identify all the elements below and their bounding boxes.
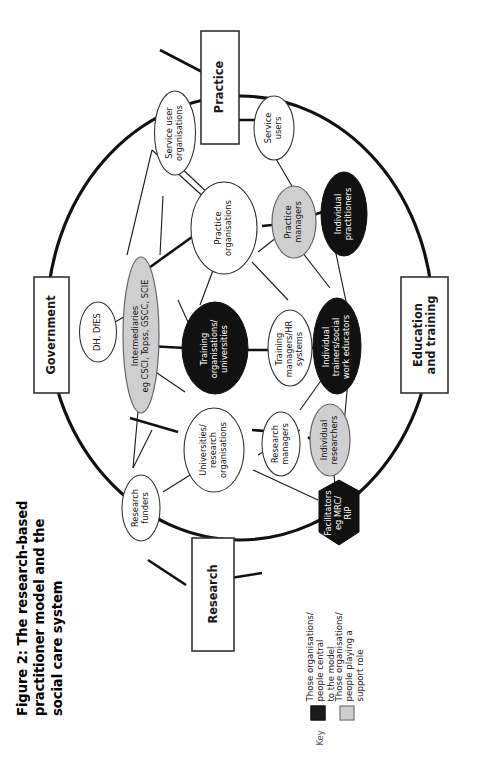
label-service-users: Service users <box>254 92 294 164</box>
node-label-text: Service user organisations <box>165 105 185 161</box>
box-label-government: Government <box>33 295 71 376</box>
label-training-organisations: Training organisations/ universities <box>194 302 236 396</box>
label-service-user-organisations: Service user organisations <box>154 89 196 177</box>
label-dh-dfes: DH, DfES <box>86 304 110 360</box>
label-research-managers: Research managers <box>265 412 297 476</box>
label-intermediaries: Intermediaries eg CSCI, Topss, GSCC, SCI… <box>129 262 153 410</box>
node-label-text: Practice managers <box>284 201 304 243</box>
label-training-managers-hr: Training managers/HR systems <box>269 311 311 387</box>
figure-page: Service user organisations Service users… <box>0 0 485 773</box>
label-individual-practitioners: Individual practitioners <box>324 172 364 256</box>
legend-swatch-central <box>311 706 326 721</box>
box-label-text: Government <box>45 295 58 374</box>
node-label-text: Intermediaries eg CSCI, Topss, GSCC, SCI… <box>131 280 151 393</box>
box-label-practice: Practice <box>201 48 239 126</box>
label-practice-organisations: Practice organisations <box>204 181 244 275</box>
node-label-text: Research managers <box>271 423 291 465</box>
label-practice-managers: Practice managers <box>276 186 312 258</box>
legend: Key Those organisations/ people central … <box>203 546 348 746</box>
node-label-text: DH, DfES <box>93 313 103 351</box>
label-research-funders: Research funders <box>125 475 157 541</box>
label-universities-research: Universities/ research organisations <box>194 407 234 493</box>
box-label-text: Practice <box>213 61 226 113</box>
node-label-text: Training organisations/ universities <box>200 320 230 379</box>
legend-text-central: Those organisations/ people central to t… <box>305 552 336 702</box>
legend-swatch-support <box>340 706 355 721</box>
node-label-text: Individual practitioners <box>334 188 354 241</box>
node-label-text: Facilitators eg MRC/ RiP <box>324 491 354 536</box>
node-label-text: Practice organisations <box>214 200 234 256</box>
legend-title: Key <box>315 730 325 745</box>
page-title: Figure 2: The research-based practitione… <box>14 436 78 716</box>
node-label-text: Training managers/HR systems <box>275 321 305 377</box>
node-label-text: Service users <box>264 113 284 144</box>
node-label-text: Individual researchers <box>320 416 340 465</box>
label-facilitators: Facilitators eg MRC/ RiP <box>318 483 360 543</box>
box-label-text: Education and training <box>411 296 438 375</box>
legend-text-support: Those organisations/ people playing a su… <box>334 552 365 702</box>
box-label-education-and-training: Education and training <box>404 287 446 384</box>
label-individual-researchers: Individual researchers <box>314 404 346 476</box>
label-individual-trainers: Individual trainers/social work educator… <box>314 299 360 395</box>
node-label-text: Individual trainers/social work educator… <box>322 315 352 379</box>
node-label-text: Research funders <box>131 489 151 527</box>
node-label-text: Universities/ research organisations <box>199 422 229 478</box>
